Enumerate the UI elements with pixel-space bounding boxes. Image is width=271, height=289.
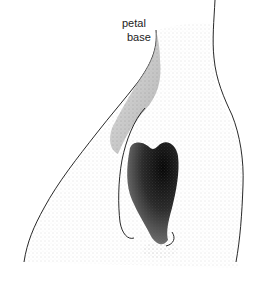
label-petal: petal [122,17,146,29]
petal-drawing [0,0,271,289]
botanical-illustration [0,0,271,289]
label-base: base [127,31,151,43]
